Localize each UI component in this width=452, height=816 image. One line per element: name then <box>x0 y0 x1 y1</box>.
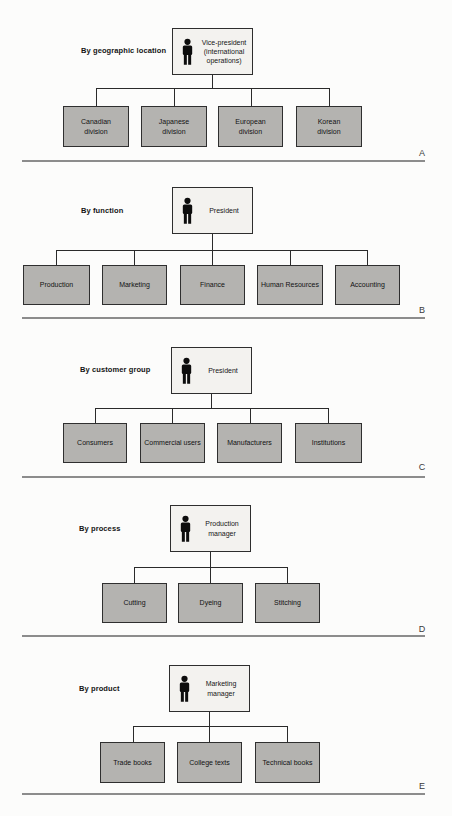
person-icon <box>177 675 192 703</box>
child-node-box: Trade books <box>100 742 165 783</box>
parent-node-label: Marketing manager <box>196 679 246 697</box>
section-label: By product <box>79 684 120 693</box>
child-node-box: College texts <box>177 742 242 783</box>
parent-node-box: Marketing manager <box>169 665 250 712</box>
connector-stub <box>133 726 134 742</box>
connector-stem <box>209 712 210 726</box>
panel-letter: E <box>414 781 430 791</box>
connector-stub <box>287 726 288 742</box>
panel-divider <box>22 793 425 795</box>
org-charts-figure: By geographic location Vice-president (i… <box>0 0 452 816</box>
connector-hline <box>133 726 288 727</box>
section-by-product: By product Marketing manager Trade books… <box>0 0 452 816</box>
child-node-box: Technical books <box>255 742 320 783</box>
connector-stub <box>209 726 210 742</box>
